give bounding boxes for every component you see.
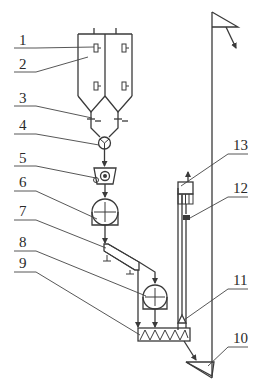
svg-text:9: 9 xyxy=(19,255,27,271)
callout-10: 10 xyxy=(208,330,248,366)
twin-silo-icon xyxy=(78,28,132,112)
rotary-feeder-icon xyxy=(99,137,111,149)
valve-icon xyxy=(183,204,190,328)
svg-text:4: 4 xyxy=(19,117,27,133)
bucket-elevator-icon xyxy=(186,12,238,378)
svg-text:2: 2 xyxy=(19,56,27,72)
gate-valve-icon xyxy=(87,112,128,124)
inlet-funnel-icon xyxy=(178,195,186,323)
callout-3: 3 xyxy=(14,90,92,118)
svg-text:5: 5 xyxy=(19,150,27,166)
callout-9: 9 xyxy=(14,255,140,335)
pump-icon xyxy=(94,168,117,184)
svg-text:8: 8 xyxy=(19,234,27,250)
svg-text:7: 7 xyxy=(19,203,27,219)
process-diagram: 1 2 3 4 5 6 7 8 9 13 12 11 xyxy=(0,0,260,392)
callout-12: 12 xyxy=(190,180,248,218)
svg-text:6: 6 xyxy=(19,174,27,190)
svg-text:1: 1 xyxy=(19,32,27,48)
svg-text:3: 3 xyxy=(19,90,27,106)
callout-4: 4 xyxy=(14,117,99,145)
callout-13: 13 xyxy=(181,137,248,186)
svg-text:12: 12 xyxy=(233,180,248,196)
screw-mixer-icon xyxy=(138,328,190,341)
inclined-conveyor-icon xyxy=(103,244,139,274)
callout-2: 2 xyxy=(14,56,88,72)
svg-text:11: 11 xyxy=(233,272,247,288)
level-indicator-icon xyxy=(94,44,129,90)
weighing-hopper-icon xyxy=(143,285,167,309)
callout-11: 11 xyxy=(184,272,248,320)
scale-hopper-icon xyxy=(92,199,118,225)
svg-text:13: 13 xyxy=(233,137,248,153)
svg-text:10: 10 xyxy=(233,330,248,346)
